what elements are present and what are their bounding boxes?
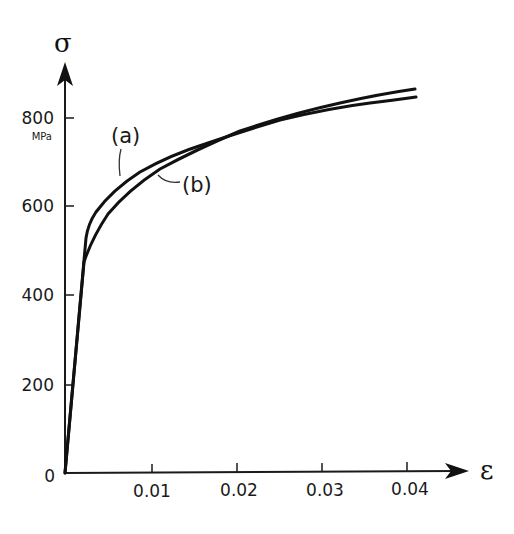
y-tick-label-400: 400 (22, 285, 54, 305)
x-tick-label-0.01: 0.01 (133, 481, 171, 501)
stress-strain-chart: σ 800 MPa 600 400 200 0 ε 0.01 0.02 0.03… (0, 0, 514, 534)
y-tick-label-800: 800 (22, 108, 54, 128)
y-tick-label-200: 200 (22, 375, 54, 395)
curve-a (65, 97, 416, 473)
y-unit-label: MPa (32, 131, 52, 142)
x-axis-line (64, 471, 455, 473)
y-axis: σ 800 MPa 600 400 200 0 (22, 28, 74, 486)
x-axis-symbol: ε (480, 455, 493, 485)
y-tick-label-0: 0 (44, 466, 55, 486)
y-tick-label-600: 600 (22, 196, 54, 216)
x-tick-label-0.03: 0.03 (306, 480, 344, 500)
curve-b-label: (b) (182, 173, 212, 197)
curve-a-label: (a) (111, 124, 140, 148)
curve-a-leader (119, 149, 121, 176)
x-tick-label-0.04: 0.04 (391, 479, 429, 499)
x-tick-label-0.02: 0.02 (220, 480, 258, 500)
y-axis-symbol: σ (54, 28, 72, 58)
curve-b-leader (158, 175, 180, 182)
x-axis: ε 0.01 0.02 0.03 0.04 (64, 455, 493, 501)
